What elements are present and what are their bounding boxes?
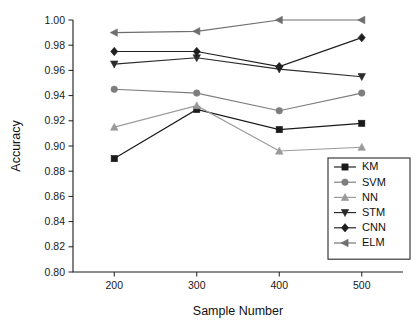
marker-circle <box>111 86 118 93</box>
marker-circle <box>342 179 349 186</box>
series-line-km <box>114 109 362 158</box>
marker-triangle-left <box>275 16 282 23</box>
x-tick-label: 300 <box>188 279 206 291</box>
x-axis: 200300400500 <box>105 272 370 291</box>
marker-triangle-left <box>358 16 365 23</box>
y-tick-label: 1.00 <box>45 14 66 26</box>
series-line-stm <box>114 58 362 77</box>
marker-triangle-left <box>110 29 117 36</box>
series-svm <box>111 86 365 114</box>
marker-diamond <box>111 47 118 55</box>
marker-circle <box>358 90 365 97</box>
x-tick-label: 200 <box>105 279 123 291</box>
legend-label: STM <box>362 206 385 218</box>
legend-label: SVM <box>362 176 386 188</box>
y-axis-title: Accuracy <box>9 120 23 172</box>
y-tick-label: 0.98 <box>45 39 66 51</box>
marker-square <box>276 127 282 133</box>
series-nn <box>111 102 366 154</box>
y-tick-label: 0.88 <box>45 165 66 177</box>
series-line-elm <box>114 20 362 33</box>
legend-label: KM <box>362 160 379 172</box>
marker-square <box>342 164 348 170</box>
marker-triangle-up <box>193 102 200 109</box>
marker-square <box>111 156 117 162</box>
y-tick-label: 0.94 <box>45 89 66 101</box>
y-tick-label: 0.84 <box>45 215 66 227</box>
marker-circle <box>193 90 200 97</box>
marker-square <box>359 120 365 126</box>
series-line-cnn <box>114 38 362 67</box>
x-axis-title: Sample Number <box>193 304 283 318</box>
x-tick-label: 400 <box>270 279 288 291</box>
series-km <box>111 106 365 161</box>
legend-label: NN <box>362 191 378 203</box>
series-elm <box>110 16 365 36</box>
series-cnn <box>111 33 366 70</box>
y-tick-label: 0.90 <box>45 140 66 152</box>
x-tick-label: 500 <box>353 279 371 291</box>
marker-diamond <box>358 33 365 41</box>
legend-label: CNN <box>362 221 386 233</box>
marker-triangle-down <box>358 74 365 81</box>
series-line-nn <box>114 106 362 151</box>
y-axis: 0.800.820.840.860.880.900.920.940.960.98… <box>45 14 73 278</box>
chart-canvas: 0.800.820.840.860.880.900.920.940.960.98… <box>0 0 418 332</box>
y-tick-label: 0.96 <box>45 64 66 76</box>
y-tick-label: 0.86 <box>45 190 66 202</box>
series-line-svm <box>114 89 362 110</box>
legend: KMSVMNNSTMCNNELM <box>328 158 410 259</box>
legend-label: ELM <box>362 236 385 248</box>
marker-triangle-left <box>193 28 200 35</box>
accuracy-vs-sample-number-chart: 0.800.820.840.860.880.900.920.940.960.98… <box>0 0 418 332</box>
y-tick-label: 0.82 <box>45 240 66 252</box>
plot-area: 0.800.820.840.860.880.900.920.940.960.98… <box>9 14 410 318</box>
y-tick-label: 0.80 <box>45 266 66 278</box>
marker-triangle-down <box>111 61 118 68</box>
y-tick-label: 0.92 <box>45 114 66 126</box>
marker-circle <box>276 107 283 114</box>
